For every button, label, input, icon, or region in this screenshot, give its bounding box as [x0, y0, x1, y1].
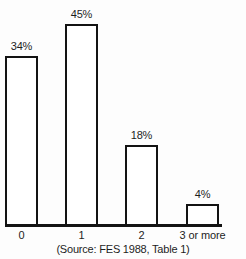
bar-rect-3 [186, 204, 219, 226]
source-caption: (Source: FES 1988, Table 1) [0, 243, 246, 255]
category-label-0: 0 [0, 229, 50, 241]
bar-rect-2 [125, 145, 158, 226]
bar-value-label-2: 18% [113, 129, 170, 141]
bar-value-label-0: 34% [0, 40, 50, 52]
bar-chart-figure: 34% 45% 18% 4% 0 1 2 3 or more (Source: … [0, 0, 246, 259]
category-label-3: 3 or more [174, 229, 231, 241]
category-label-2: 2 [113, 229, 170, 241]
bar-value-label-3: 4% [174, 188, 231, 200]
x-axis-line [5, 224, 222, 227]
bar-rect-1 [65, 24, 98, 226]
bar-rect-0 [5, 56, 38, 226]
category-label-1: 1 [53, 229, 110, 241]
plot-area: 34% 45% 18% 4% [0, 0, 246, 226]
bar-value-label-1: 45% [53, 8, 110, 20]
